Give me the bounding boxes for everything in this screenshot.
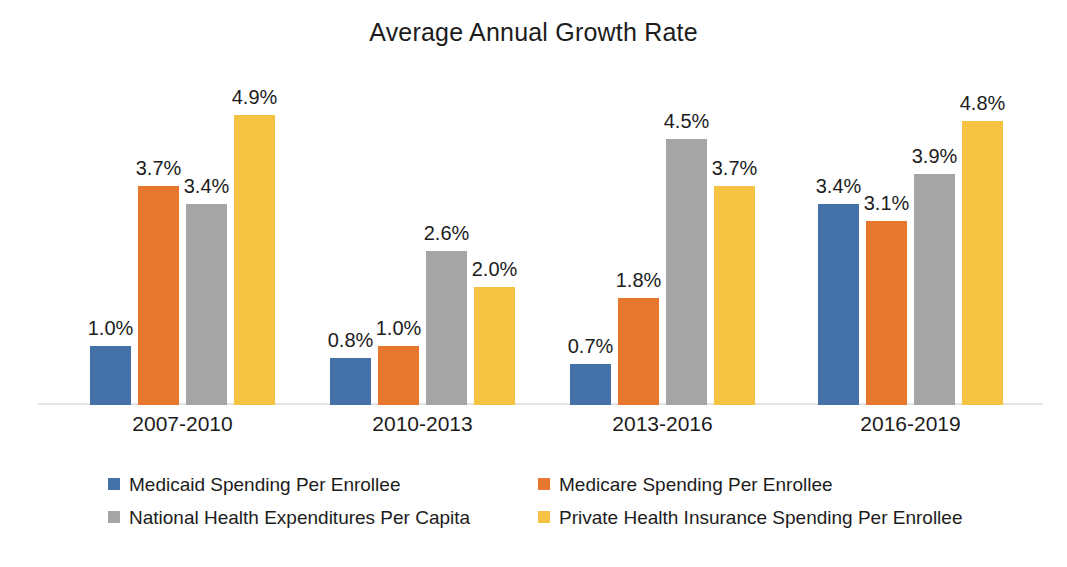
bar[interactable] [666, 139, 707, 405]
category-label-2016-2019: 2016-2019 [818, 412, 1003, 436]
bar-value-label: 2.6% [424, 223, 470, 243]
bar-value-label: 3.9% [912, 146, 958, 166]
chart-title: Average Annual Growth Rate [0, 18, 1067, 47]
bar-value-label: 1.0% [88, 318, 134, 338]
legend-label: Medicare Spending Per Enrollee [559, 475, 833, 494]
bar-value-label: 2.0% [472, 259, 518, 279]
bar[interactable] [818, 204, 859, 405]
bar[interactable] [474, 287, 515, 405]
legend-row: Medicaid Spending Per Enrollee Medicare … [108, 470, 988, 503]
bar-value-label: 3.4% [816, 176, 862, 196]
legend-item-private-insurance[interactable]: Private Health Insurance Spending Per En… [538, 503, 962, 531]
bar[interactable] [866, 221, 907, 405]
category-label-2007-2010: 2007-2010 [90, 412, 275, 436]
bar-group: 1.0%3.7%3.4%4.9% [90, 72, 275, 405]
bar-value-label: 0.7% [568, 336, 614, 356]
bar[interactable] [330, 358, 371, 405]
bar[interactable] [186, 204, 227, 405]
bar-value-label: 4.8% [960, 93, 1006, 113]
category-label-2010-2013: 2010-2013 [330, 412, 515, 436]
bar[interactable] [962, 121, 1003, 405]
plot-area: 1.0%3.7%3.4%4.9%0.8%1.0%2.6%2.0%0.7%1.8%… [0, 70, 1067, 405]
legend-item-medicaid[interactable]: Medicaid Spending Per Enrollee [108, 470, 538, 498]
legend-item-national-health[interactable]: National Health Expenditures Per Capita [108, 503, 538, 531]
bar-value-label: 4.5% [664, 111, 710, 131]
bar[interactable] [138, 186, 179, 405]
bar[interactable] [914, 174, 955, 405]
bar-value-label: 1.8% [616, 270, 662, 290]
legend-item-medicare[interactable]: Medicare Spending Per Enrollee [538, 470, 833, 498]
chart-legend: Medicaid Spending Per Enrollee Medicare … [108, 470, 988, 536]
legend-label: National Health Expenditures Per Capita [129, 508, 470, 527]
bar-value-label: 3.1% [864, 193, 910, 213]
bar-value-label: 0.8% [328, 330, 374, 350]
bar[interactable] [426, 251, 467, 405]
legend-swatch-icon [538, 478, 550, 490]
bar-group: 0.8%1.0%2.6%2.0% [330, 72, 515, 405]
bar-value-label: 3.4% [184, 176, 230, 196]
category-label-2013-2016: 2013-2016 [570, 412, 755, 436]
legend-swatch-icon [108, 511, 120, 523]
bar[interactable] [378, 346, 419, 405]
bar[interactable] [234, 115, 275, 405]
legend-swatch-icon [538, 511, 550, 523]
legend-swatch-icon [108, 478, 120, 490]
bar-group: 3.4%3.1%3.9%4.8% [818, 72, 1003, 405]
legend-label: Medicaid Spending Per Enrollee [129, 475, 400, 494]
bar-value-label: 3.7% [712, 158, 758, 178]
legend-label: Private Health Insurance Spending Per En… [559, 508, 962, 527]
bar[interactable] [570, 364, 611, 405]
bar-value-label: 3.7% [136, 158, 182, 178]
bar-value-label: 1.0% [376, 318, 422, 338]
legend-row: National Health Expenditures Per Capita … [108, 503, 988, 536]
bar[interactable] [618, 298, 659, 405]
bar-value-label: 4.9% [232, 87, 278, 107]
bar[interactable] [90, 346, 131, 405]
chart-container: Average Annual Growth Rate 1.0%3.7%3.4%4… [0, 0, 1067, 567]
bar-group: 0.7%1.8%4.5%3.7% [570, 72, 755, 405]
bar[interactable] [714, 186, 755, 405]
